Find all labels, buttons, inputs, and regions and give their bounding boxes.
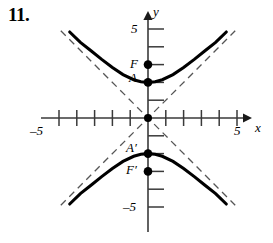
point-vertex-lower (144, 149, 153, 158)
x-axis-label: x (255, 120, 261, 136)
label-focus-lower: F′ (126, 162, 137, 178)
y-tick-label-negative-five: –5 (123, 199, 136, 215)
y-tick-label-positive-five: 5 (131, 21, 138, 37)
hyperbola-figure: 11. (0, 0, 273, 243)
label-vertex-lower: A′ (126, 140, 137, 156)
y-axis-label: y (153, 4, 159, 20)
point-focus-lower (144, 167, 153, 176)
x-tick-label-positive-five: 5 (234, 123, 241, 139)
x-tick-label-negative-five: –5 (30, 123, 43, 139)
point-focus-upper (144, 60, 153, 69)
point-vertex-upper (144, 78, 153, 87)
point-center (144, 114, 152, 122)
label-vertex-upper: A (129, 70, 137, 86)
